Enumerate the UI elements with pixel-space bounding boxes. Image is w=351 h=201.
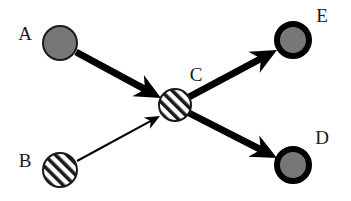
node-label-e: E [316,5,328,26]
node-circle[interactable] [43,153,77,187]
node-a[interactable] [43,26,77,60]
node-label-c: C [190,64,203,85]
node-circle[interactable] [159,89,191,121]
node-d[interactable] [277,149,309,181]
graph-svg: ABCDE [0,0,351,201]
node-circle[interactable] [43,26,77,60]
node-b[interactable] [43,153,77,187]
node-e[interactable] [277,24,309,56]
node-c[interactable] [159,89,191,121]
node-label-b: B [19,150,32,171]
node-circle[interactable] [277,24,309,56]
diagram-canvas: ABCDE [0,0,351,201]
node-label-a: A [18,23,32,44]
node-label-d: D [315,127,329,148]
node-circle[interactable] [277,149,309,181]
